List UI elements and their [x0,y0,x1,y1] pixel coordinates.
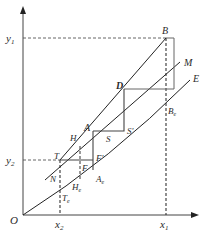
label-a: A [83,122,91,133]
label-x1: x1 [159,218,168,232]
label-x2: x2 [54,218,64,232]
equilibrium-curve-e [23,80,190,215]
label-t: T [54,151,60,161]
label-d: D [115,80,123,91]
label-y2: y2 [5,154,15,168]
label-m: M [183,57,193,68]
label-y1: y1 [5,32,14,46]
label-f-prime: F' [95,153,104,163]
label-h: H [69,133,77,143]
label-e: E [192,73,199,84]
label-origin: O [10,214,18,226]
middle-line-m [45,62,180,180]
stepwise-construction-diagram: y1 y2 O x2 x1 B M E D Be A S S' H T F F'… [0,0,214,234]
label-s-prime: S' [127,126,135,136]
label-n: N [49,174,57,184]
label-ae: Ae [95,174,105,185]
label-b: B [162,25,168,36]
label-f: F [81,163,88,173]
label-be: Be [168,106,177,117]
label-he: He [71,182,82,193]
label-te: Te [62,193,70,204]
label-s: S [106,134,111,144]
